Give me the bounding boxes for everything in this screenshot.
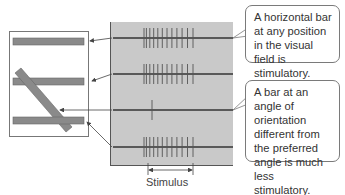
callout-horizontal-stimulatory: A horizontal bar at any position in the … [245,5,340,63]
horizontal-bar-bottom [13,117,84,124]
stimulus-label: Stimulus [146,176,188,188]
arrow-row-2 [92,74,112,81]
arrow-row-4 [87,122,112,147]
arrow-row-1 [90,38,112,41]
callout-angle-less-stimulatory: A bar at an angle of orientation differe… [245,80,340,162]
horizontal-bar-top [13,38,84,45]
